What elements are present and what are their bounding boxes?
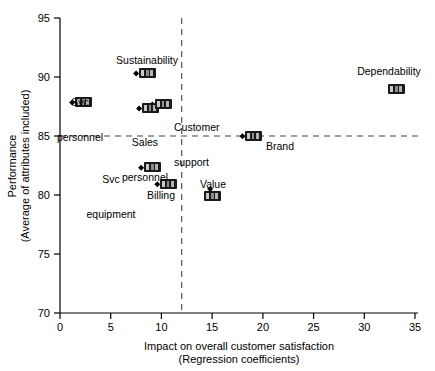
scatter-chart: 95 90 85 80 75 70 0 5 10 15 20 25 30 35 … [0,0,435,371]
y-tick-label-80: 80 [38,189,50,201]
x-tick-label-0: 0 [57,321,63,333]
point-label-svc-equipment: Svc equipment [78,151,144,243]
y-tick-label-95: 95 [38,12,50,24]
x-axis-title-line2: (Regression coefficients) [179,353,300,365]
point-label-svc-equipment-line1: Svc [78,174,144,186]
x-axis-title-line1: Impact on overall customer satisfaction [144,340,334,352]
badge-dependability [388,84,405,94]
point-label-dependability: Dependability [346,66,432,78]
x-tick-label-35: 35 [409,321,421,333]
point-label-sustainability: Sustainability [104,55,190,67]
badge-sustainability [139,68,156,78]
x-tick-label-20: 20 [257,321,269,333]
point-label-svc-personnel-line1: Svc [40,97,120,109]
point-label-value: Value [188,179,238,191]
x-tick-label-15: 15 [206,321,218,333]
x-tick-label-5: 5 [108,321,114,333]
x-tick-label-25: 25 [307,321,319,333]
badge-value [204,191,221,201]
x-tick-marks [60,313,415,319]
point-label-customer-support-line1: Customer [174,122,248,134]
x-tick-label-10: 10 [155,321,167,333]
point-label-billing: Billing [136,190,186,202]
point-label-brand: Brand [266,141,326,153]
y-tick-label-75: 75 [38,248,50,260]
badge-customer-support [155,99,172,109]
point-label-customer-support-line2: support [174,157,248,169]
x-tick-label-30: 30 [358,321,370,333]
y-axis-title-line1: Performance [6,135,18,198]
point-label-sales-personnel-line1: Sales [105,137,185,149]
y-axis-title-line2: (Average of attributes included) [19,90,31,243]
y-tick-label-70: 70 [38,307,50,319]
point-label-svc-equipment-line2: equipment [78,209,144,221]
